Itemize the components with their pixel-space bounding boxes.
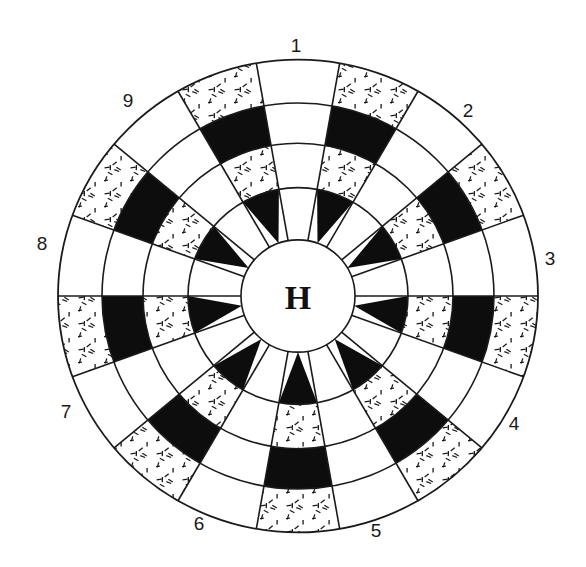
ring-cell-black — [264, 446, 332, 489]
sector-number-label: 5 — [371, 521, 382, 540]
ring-cell-white — [264, 103, 332, 146]
sector-number-label: 7 — [61, 402, 72, 421]
ring-cell-stipple — [271, 403, 325, 449]
hub-label: H — [285, 281, 311, 315]
sector-number-label: 9 — [123, 91, 134, 110]
sector-number-label: 8 — [37, 234, 48, 253]
sector-number-label: 4 — [509, 414, 520, 433]
ring-cell-white — [256, 60, 339, 106]
sector-number-label: 1 — [291, 36, 302, 55]
sector-number-label: 2 — [463, 101, 474, 120]
sector-number-label: 3 — [545, 249, 556, 268]
ring-cell-stipple — [256, 486, 339, 532]
sector-number-label: 6 — [194, 514, 205, 533]
ring-cell-white — [271, 143, 325, 189]
